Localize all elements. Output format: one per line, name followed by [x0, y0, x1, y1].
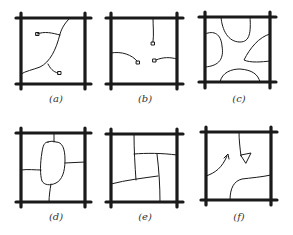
figure-svg [0, 0, 293, 235]
caption-e: (e) [138, 212, 152, 222]
frame-c [199, 12, 276, 88]
frame-b [106, 13, 183, 89]
paths-a [21, 18, 70, 75]
panel-c [199, 12, 276, 88]
panel-b [106, 13, 183, 89]
paths-e [111, 134, 177, 202]
paths-b [111, 18, 177, 64]
frame-e [106, 129, 183, 207]
panel-f [201, 127, 277, 205]
caption-b: (b) [138, 94, 152, 104]
panel-e [106, 129, 183, 207]
frame-a [16, 13, 91, 89]
paths-d [21, 133, 85, 202]
panel-a [16, 13, 91, 89]
caption-d: (d) [49, 212, 63, 222]
paths-c [205, 17, 270, 82]
caption-a: (a) [49, 94, 63, 104]
caption-f: (f) [233, 212, 245, 222]
panel-d [16, 128, 91, 207]
paths-f [206, 132, 271, 200]
caption-c: (c) [232, 94, 245, 104]
figure-panel-grid: (a) (b) (c) (d) (e) (f) [0, 0, 293, 235]
